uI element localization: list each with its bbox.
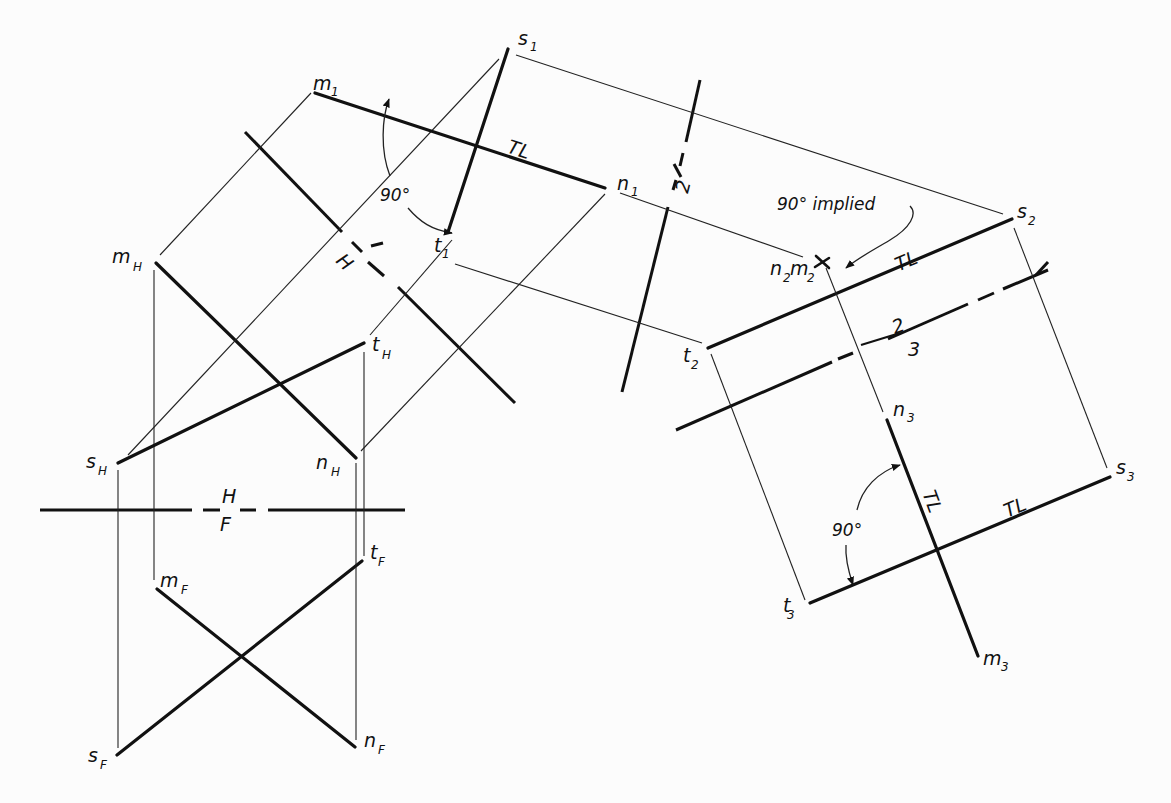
projectors-1-2 (455, 55, 1003, 343)
tl-label-view3-st: TL (1000, 493, 1029, 522)
svg-text:m: m (112, 245, 131, 267)
svg-text:m: m (313, 72, 332, 94)
aux-view-2: TL 90° implied (708, 194, 1012, 348)
svg-text:2: 2 (691, 358, 699, 372)
svg-text:1: 1 (530, 40, 538, 54)
fold-label-f: F (220, 513, 232, 535)
svg-text:1: 1 (442, 247, 450, 261)
svg-text:3: 3 (907, 411, 915, 425)
label-m3: m3 (983, 647, 1009, 674)
label-t3: t3 (783, 594, 795, 622)
svg-text:F: F (378, 555, 386, 569)
label-t2: t2 (683, 344, 699, 372)
svg-text:s: s (518, 27, 528, 49)
label-n3: n3 (893, 398, 915, 425)
aux-view-1: 90° TL (315, 49, 605, 233)
svg-text:n: n (893, 398, 905, 420)
svg-text:s: s (1017, 200, 1027, 222)
svg-text:s: s (86, 450, 96, 472)
svg-text:F: F (181, 583, 189, 597)
fold-label-h: H (332, 249, 358, 275)
svg-text:m: m (790, 257, 809, 279)
label-sH: sH (86, 450, 107, 478)
svg-text:H: H (331, 465, 340, 479)
label-n1: n1 (617, 172, 639, 199)
svg-text:2: 2 (1028, 214, 1036, 228)
line-mn-view1 (315, 93, 605, 188)
aux-view-3: 90° TL TL (810, 420, 1110, 656)
fold-label-2: 2 (889, 313, 908, 338)
svg-text:3: 3 (787, 608, 795, 622)
label-tH: tH (372, 333, 391, 362)
line-st-view2 (708, 219, 1012, 348)
svg-text:s: s (88, 744, 98, 766)
label-nF: nF (364, 729, 386, 757)
svg-text:n: n (770, 257, 782, 279)
angle-label-view3: 90° (832, 520, 862, 540)
fold-label-2: 2 (670, 178, 694, 195)
label-mF: mF (160, 569, 189, 597)
svg-text:1: 1 (631, 185, 639, 199)
orthographic-drawing: H F H 90° TL (0, 0, 1171, 803)
fold-line-h-1: H (245, 132, 515, 403)
drawing-sheet: H F H 90° TL (0, 0, 1171, 803)
fold-line-h-f: H F (40, 485, 405, 535)
svg-text:2: 2 (807, 271, 815, 285)
line-st-view3 (810, 477, 1110, 603)
svg-text:3: 3 (1001, 660, 1009, 674)
top-view (118, 263, 364, 463)
tl-label-view1: TL (505, 135, 533, 163)
svg-text:m: m (160, 569, 179, 591)
label-s2: s2 (1017, 200, 1036, 228)
label-mH: mH (112, 245, 142, 274)
point-view-mn (815, 256, 829, 268)
fold-label-3: 3 (908, 338, 920, 360)
tl-label-view2: TL (892, 246, 921, 275)
svg-text:H: H (382, 348, 391, 362)
svg-text:t: t (372, 333, 381, 355)
svg-text:m: m (983, 647, 1002, 669)
implied-note: 90° implied (777, 194, 876, 214)
label-s1: s1 (518, 27, 538, 54)
svg-text:n: n (617, 172, 629, 194)
label-tF: tF (370, 541, 386, 569)
line-st-top (118, 343, 364, 463)
svg-text:3: 3 (1127, 470, 1135, 484)
angle-label-view1: 90° (380, 185, 410, 205)
svg-text:1: 1 (331, 85, 339, 99)
label-nH: nH (316, 451, 340, 479)
line-st-front (117, 561, 362, 755)
fold-line-2-3: 2 3 (676, 262, 1048, 430)
front-view (117, 561, 362, 755)
svg-text:n: n (316, 451, 328, 473)
svg-text:H: H (98, 464, 107, 478)
label-t1: t1 (434, 234, 450, 261)
label-s3: s3 (1116, 456, 1135, 484)
point-labels: m1 n1 s1 t1 mH nH sH tH mF nF sF tF n2 m… (86, 27, 1135, 772)
svg-text:F: F (100, 758, 108, 772)
projectors-h-1 (128, 59, 605, 455)
label-n2m2: n2 m2 (770, 257, 815, 285)
svg-text:F: F (378, 743, 386, 757)
svg-text:s: s (1116, 456, 1126, 478)
line-mn-front (157, 589, 355, 747)
svg-text:n: n (364, 729, 376, 751)
label-sF: sF (88, 744, 108, 772)
svg-text:H: H (133, 260, 142, 274)
fold-label-h: H (222, 485, 236, 507)
